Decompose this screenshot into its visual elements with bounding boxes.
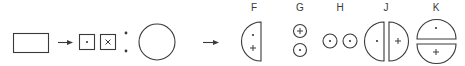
start-rectangle — [14, 34, 49, 53]
option-label-g: G — [296, 2, 304, 13]
colon-dot-top — [125, 32, 128, 35]
option-h-right-dot — [349, 40, 351, 42]
option-f-shape — [242, 22, 261, 61]
option-j-dot — [376, 40, 378, 42]
option-h-left-dot — [329, 40, 331, 42]
option-label-j: J — [384, 2, 389, 13]
cross-icon — [106, 40, 111, 45]
option-label-h: H — [336, 2, 343, 13]
option-j-left-half — [365, 22, 384, 61]
option-label-k: K — [433, 2, 440, 13]
dot-icon — [86, 41, 88, 43]
colon-dot-bottom — [125, 50, 128, 53]
plus-icon — [433, 49, 439, 55]
arrow-icon — [58, 40, 73, 45]
plus-icon — [250, 45, 256, 51]
plus-icon — [395, 38, 401, 44]
option-f-dot — [252, 34, 254, 36]
arrow-icon — [203, 40, 219, 45]
option-k-dot — [435, 27, 437, 29]
option-label-f: F — [251, 2, 257, 13]
plus-icon — [297, 28, 303, 34]
option-k-top-half — [417, 20, 456, 40]
pattern-diagram: F G H J K — [0, 0, 465, 66]
circle — [139, 24, 175, 60]
option-g-dot — [299, 49, 301, 51]
